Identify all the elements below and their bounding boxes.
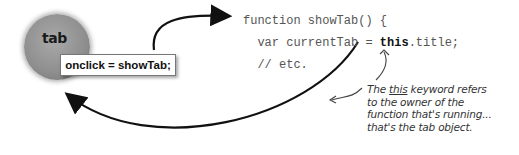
note-arrow-up	[376, 52, 386, 80]
code-line-2-suffix: .title;	[409, 36, 459, 50]
annotation-note: The this keyword refers to the owner of …	[367, 83, 517, 133]
note-line-4: that's the tab object.	[367, 121, 517, 134]
code-line-2-prefix: var currentTab =	[243, 36, 380, 50]
code-line-2: var currentTab = this.title;	[243, 36, 459, 50]
note-text: The	[367, 83, 389, 95]
this-keyword: this	[380, 36, 409, 50]
note-line-1: The this keyword refers	[367, 83, 517, 96]
code-line-3: // etc.	[243, 58, 308, 72]
note-arrow-left	[332, 88, 362, 100]
note-keyword: this	[389, 83, 407, 95]
onclick-handler-box: onclick = showTab;	[60, 54, 176, 76]
call-arrow	[154, 16, 228, 50]
code-line-1: function showTab() {	[243, 14, 387, 28]
tab-label: tab	[42, 30, 67, 46]
note-text: keyword refers	[407, 83, 486, 95]
diagram-canvas: tab onclick = showTab; function showTab(…	[0, 0, 519, 155]
note-line-2: to the owner of the	[367, 96, 517, 109]
note-line-3: function that's running...	[367, 108, 517, 121]
